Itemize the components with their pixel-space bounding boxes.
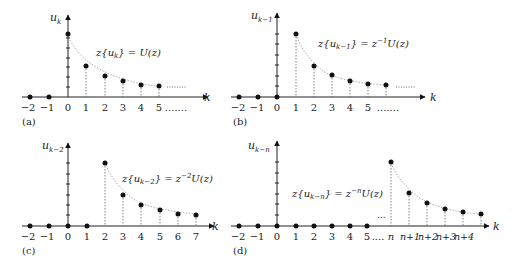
y-axis-label: uk (50, 11, 61, 26)
svg-text:3: 3 (329, 102, 335, 113)
svg-text:0: 0 (274, 102, 280, 113)
y-axis-label: uk−2 (42, 139, 64, 154)
svg-text:4: 4 (138, 102, 144, 113)
svg-text:....: .... (372, 231, 385, 242)
svg-text:3: 3 (329, 231, 335, 242)
panel-label: (a) (22, 116, 36, 127)
svg-text:4: 4 (347, 231, 353, 242)
svg-text:.......: ....... (165, 102, 187, 113)
svg-text:4: 4 (138, 231, 144, 242)
svg-text:n+4: n+4 (454, 231, 474, 242)
svg-text:0: 0 (65, 102, 71, 113)
x-axis-label: k (430, 91, 437, 104)
y-axis-label: uk−n (248, 139, 270, 154)
svg-text:−1: −1 (40, 102, 55, 113)
svg-text:0: 0 (274, 231, 280, 242)
svg-text:.......: ....... (377, 102, 399, 113)
stem-lines (391, 162, 481, 226)
svg-text:1: 1 (293, 102, 299, 113)
svg-text:−1: −1 (40, 231, 55, 242)
svg-text:5: 5 (156, 102, 162, 113)
svg-text:−1: −1 (250, 102, 265, 113)
panel-b: uk−1 k z{uk−1} = z−1U(z) −2 −1 0 1 2 3 4… (231, 9, 437, 127)
svg-text:−2: −2 (21, 102, 36, 113)
svg-text:n: n (388, 231, 394, 242)
x-tick-labels: −2 −1 0 1 2 3 4 5 ....... (21, 102, 188, 113)
svg-text:6: 6 (175, 231, 181, 242)
svg-text:5: 5 (157, 231, 163, 242)
x-axis-label: k (212, 220, 219, 233)
equation: z{uk−n} = z−nU(z) (291, 187, 383, 201)
svg-text:3: 3 (120, 231, 126, 242)
panel-label: (c) (22, 245, 36, 256)
svg-text:4: 4 (347, 102, 353, 113)
equation: z{uk} = U(z) (95, 47, 161, 60)
equation: z{uk−1} = z−1U(z) (317, 37, 409, 51)
svg-text:2: 2 (311, 231, 317, 242)
y-axis-label: uk−1 (251, 9, 273, 24)
svg-text:2: 2 (102, 231, 108, 242)
panel-label: (d) (233, 245, 247, 256)
svg-text:5: 5 (364, 231, 370, 242)
panel-label: (b) (233, 116, 247, 127)
figure-canvas: uk k z{uk} = U(z) −2 −1 0 1 2 3 4 5 ....… (0, 0, 521, 258)
equation: z{uk−2} = z−2U(z) (121, 172, 213, 186)
svg-text:1: 1 (293, 231, 299, 242)
x-tick-labels: −2 −1 0 1 2 3 4 5 .... n n+1 n+2 n+3 n+4 (231, 231, 474, 242)
svg-text:5: 5 (365, 102, 371, 113)
svg-text:−1: −1 (250, 231, 265, 242)
svg-text:7: 7 (193, 231, 199, 242)
svg-text:−2: −2 (231, 231, 246, 242)
svg-text:0: 0 (65, 231, 71, 242)
x-tick-labels: −2 −1 0 1 2 3 4 5 ....... (231, 102, 400, 113)
x-axis-label: k (204, 91, 211, 104)
svg-text:3: 3 (120, 102, 126, 113)
x-tick-labels: −2 −1 0 1 2 3 4 5 6 7 (21, 231, 200, 242)
svg-text:1: 1 (83, 102, 89, 113)
svg-text:−2: −2 (21, 231, 36, 242)
gap-marker: ... (377, 210, 386, 220)
data-points (28, 161, 199, 229)
svg-text:1: 1 (84, 231, 90, 242)
panel-c: uk−2 k z{uk−2} = z−2U(z) −2 −1 0 1 2 3 4… (21, 139, 219, 256)
envelope-curve (391, 163, 480, 214)
svg-text:2: 2 (102, 102, 108, 113)
svg-text:2: 2 (311, 102, 317, 113)
svg-text:−2: −2 (231, 102, 246, 113)
panel-a: uk k z{uk} = U(z) −2 −1 0 1 2 3 4 5 ....… (21, 11, 211, 127)
panel-d: ... uk−n k z{uk−n} = z−nU(z) −2 −1 0 1 2… (231, 139, 500, 256)
x-axis-label: k (493, 220, 500, 233)
